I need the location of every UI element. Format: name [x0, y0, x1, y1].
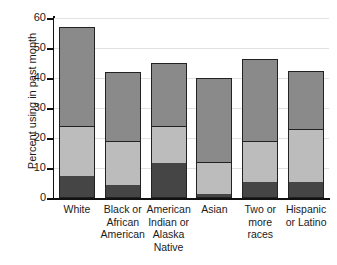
bar-segment-middle-segment: [289, 129, 323, 182]
y-tick-mark: [47, 18, 53, 20]
bar-segment-middle-segment: [106, 141, 140, 185]
x-axis-labels: WhiteBlack orAfricanAmericanAmericanIndi…: [54, 203, 329, 263]
y-tick-mark: [47, 108, 53, 110]
y-tick-mark: [47, 198, 53, 200]
x-axis-label-line: American: [143, 203, 195, 216]
x-axis-label-line: Alaska: [143, 228, 195, 241]
bar-hispanic-or-latino[interactable]: [288, 71, 324, 199]
bar-two-or-more-races[interactable]: [242, 59, 278, 199]
bar-segment-bottom-segment: [106, 185, 140, 197]
y-tick-label: 30: [6, 101, 46, 113]
y-tick-mark: [47, 48, 53, 50]
bar-segment-top-segment: [60, 28, 94, 126]
x-axis-label-line: races: [234, 228, 286, 241]
x-axis-label-line: Asian: [189, 203, 241, 216]
bar-segment-middle-segment: [60, 126, 94, 176]
y-tick-label: 40: [6, 71, 46, 83]
bar-segment-bottom-segment: [197, 194, 231, 197]
bar-segment-top-segment: [289, 72, 323, 130]
x-axis-label-line: Hispanic: [280, 203, 332, 216]
bar-segment-top-segment: [243, 60, 277, 141]
bar-white[interactable]: [59, 27, 95, 198]
x-axis-label-line: Two or: [234, 203, 286, 216]
bar-segment-bottom-segment: [243, 182, 277, 197]
x-axis-label-line: more: [234, 216, 286, 229]
bar-segment-top-segment: [197, 79, 231, 162]
y-tick-label: 20: [6, 131, 46, 143]
bar-segment-bottom-segment: [60, 176, 94, 197]
y-tick-label: 10: [6, 161, 46, 173]
x-axis-label-2: AmericanIndian orAlaskaNative: [143, 203, 195, 253]
stacked-bar-chart: Percent using in past month 010203040506…: [0, 0, 337, 265]
bar-segment-top-segment: [106, 73, 140, 141]
gridline: [54, 48, 329, 49]
bar-segment-middle-segment: [152, 126, 186, 163]
x-axis-label-line: American: [97, 228, 149, 241]
bar-black-or-african-american[interactable]: [105, 72, 141, 198]
x-axis-label-4: Two ormoreraces: [234, 203, 286, 241]
bar-segment-middle-segment: [197, 162, 231, 194]
x-axis-label-line: African: [97, 216, 149, 229]
bar-segment-top-segment: [152, 64, 186, 126]
bar-segment-bottom-segment: [289, 182, 323, 197]
y-tick-label: 50: [6, 41, 46, 53]
plot-area: [54, 18, 329, 198]
y-tick-mark: [47, 78, 53, 80]
y-tick-mark: [47, 138, 53, 140]
x-axis-label-line: White: [51, 203, 103, 216]
x-axis-label-line: Black or: [97, 203, 149, 216]
x-axis-label-0: White: [51, 203, 103, 216]
bar-segment-bottom-segment: [152, 163, 186, 197]
x-axis-label-line: or Latino: [280, 216, 332, 229]
x-axis-label-line: Indian or: [143, 216, 195, 229]
y-tick-label: 60: [6, 11, 46, 23]
y-tick-label: 0: [6, 191, 46, 203]
bar-segment-middle-segment: [243, 141, 277, 182]
x-axis-label-3: Asian: [189, 203, 241, 216]
x-axis-label-1: Black orAfricanAmerican: [97, 203, 149, 241]
gridline: [54, 18, 329, 19]
x-axis-line: [53, 198, 330, 200]
x-axis-label-5: Hispanicor Latino: [280, 203, 332, 228]
x-axis-label-line: Native: [143, 241, 195, 254]
y-tick-mark: [47, 168, 53, 170]
bar-american-indian-or-alaska-native[interactable]: [151, 63, 187, 198]
bar-asian[interactable]: [196, 78, 232, 198]
